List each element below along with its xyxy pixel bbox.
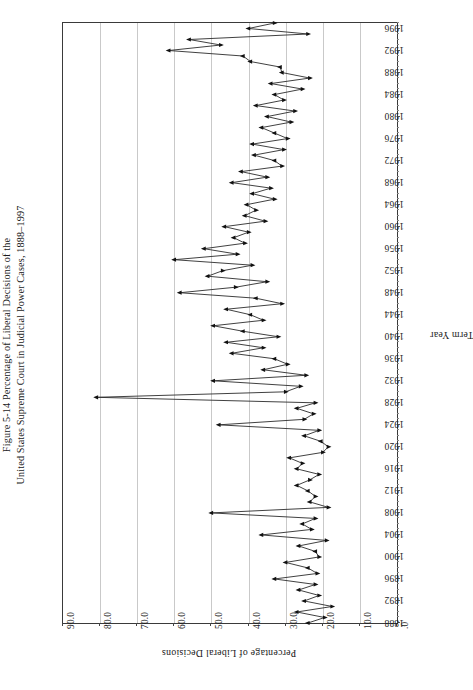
year-tick (397, 495, 399, 496)
figure-title-line-2: United States Supreme Court in Judicial … (14, 206, 28, 485)
year-tick-label: 1940 (384, 330, 404, 341)
year-tick (397, 105, 399, 106)
year-tick-label: 1916 (384, 462, 404, 473)
year-tick-label: 1912 (384, 484, 404, 495)
data-point-marker (186, 37, 191, 41)
data-point-marker (317, 472, 322, 476)
year-tick (397, 55, 399, 56)
category-axis: 1996199219881984198019761972196819641960… (397, 22, 457, 622)
data-point-marker (327, 445, 332, 449)
data-point-marker (262, 346, 267, 350)
data-point-marker (312, 549, 317, 553)
data-point-marker (305, 566, 310, 570)
year-tick (397, 83, 399, 84)
data-point-marker (273, 21, 278, 25)
data-point-marker (290, 120, 295, 124)
data-point-marker (242, 214, 247, 218)
value-tick-label: 60.0 (177, 612, 187, 629)
data-point-marker (245, 26, 250, 30)
year-tick (397, 413, 399, 414)
data-point-marker (201, 247, 206, 251)
data-point-marker (229, 181, 234, 185)
data-point-marker (268, 81, 273, 85)
data-point-marker (299, 384, 304, 388)
data-point-marker (258, 533, 263, 537)
year-tick (397, 143, 399, 144)
year-tick-label: 1944 (384, 308, 404, 319)
data-point-marker (258, 125, 263, 129)
year-tick-label: 1984 (384, 88, 404, 99)
year-tick-label: 1924 (384, 418, 404, 429)
data-point-marker (240, 329, 245, 333)
value-tick (99, 623, 100, 626)
year-tick (397, 605, 399, 606)
data-series-layer (63, 23, 397, 623)
data-point-marker (244, 203, 249, 207)
data-point-marker (301, 461, 306, 465)
year-tick (397, 39, 399, 40)
figure-title: Figure 5-14 Percentage of Liberal Decisi… (0, 0, 58, 690)
data-point-marker (282, 148, 287, 152)
year-tick (397, 33, 399, 34)
value-tick (248, 623, 249, 626)
year-tick-label: 1908 (384, 506, 404, 517)
year-tick (397, 231, 399, 232)
value-tick-label: 40.0 (252, 612, 262, 629)
data-point-marker (265, 175, 270, 179)
data-point-marker (294, 483, 299, 487)
data-point-marker (306, 32, 311, 36)
data-point-marker (249, 192, 254, 196)
data-point-marker (253, 296, 258, 300)
data-point-marker (314, 494, 319, 498)
year-tick (397, 319, 399, 320)
data-point-marker (317, 428, 322, 432)
data-point-marker (262, 318, 267, 322)
year-tick (397, 193, 399, 194)
data-point-marker (271, 357, 276, 361)
data-point-marker (234, 285, 239, 289)
year-tick-label: 1988 (384, 66, 404, 77)
data-point-marker (301, 434, 306, 438)
year-tick (397, 451, 399, 452)
data-point-marker (314, 582, 319, 586)
data-point-marker (286, 456, 291, 460)
year-tick (397, 325, 399, 326)
year-tick (397, 545, 399, 546)
data-point-marker (229, 351, 234, 355)
year-tick (397, 99, 399, 100)
year-tick (397, 275, 399, 276)
year-tick-label: 1920 (384, 440, 404, 451)
year-tick-label: 1960 (384, 220, 404, 231)
year-tick-label: 1992 (384, 44, 404, 55)
data-point-marker (253, 103, 258, 107)
data-point-marker (330, 604, 335, 608)
data-point-marker (236, 252, 241, 256)
year-tick (397, 149, 399, 150)
year-tick-label: 1996 (384, 22, 404, 33)
year-tick (397, 303, 399, 304)
year-tick (397, 391, 399, 392)
category-axis-title: Term Year (430, 330, 473, 341)
year-tick (397, 435, 399, 436)
year-tick-label: 1900 (384, 550, 404, 561)
year-tick (397, 583, 399, 584)
year-tick (397, 165, 399, 166)
year-tick-label: 1956 (384, 242, 404, 253)
value-tick-label: 20.0 (326, 612, 336, 629)
data-point-marker (219, 43, 224, 47)
year-tick (397, 297, 399, 298)
year-tick (397, 385, 399, 386)
series-line (96, 23, 332, 623)
data-point-marker (254, 208, 259, 212)
data-point-marker (301, 599, 306, 603)
value-tick (136, 623, 137, 626)
data-point-marker (249, 142, 254, 146)
year-tick-label: 1892 (384, 594, 404, 605)
data-point-marker (296, 588, 301, 592)
year-tick (397, 253, 399, 254)
data-point-marker (240, 54, 245, 58)
year-tick-label: 1952 (384, 264, 404, 275)
data-point-marker (327, 505, 332, 509)
data-point-marker (264, 114, 269, 118)
year-tick-label: 1888 (384, 617, 404, 628)
